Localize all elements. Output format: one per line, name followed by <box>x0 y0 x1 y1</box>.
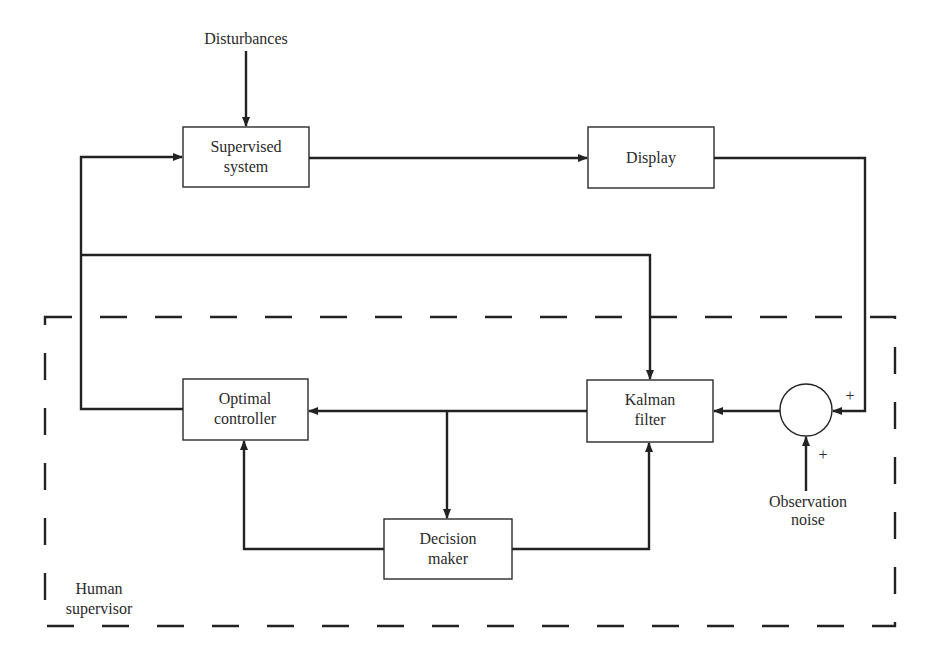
human-supervisor-block-diagram: Disturbances Supervised system Display +… <box>0 0 931 662</box>
human-supervisor-label-2: supervisor <box>66 600 133 618</box>
decision-maker-label-2: maker <box>428 550 469 567</box>
decision-maker-block: Decision maker <box>384 519 512 579</box>
controller-to-system-arrow <box>81 157 183 409</box>
observation-noise-label-1: Observation <box>769 493 847 510</box>
supervised-system-block: Supervised system <box>183 127 309 187</box>
decision-to-controller-arrow <box>244 441 384 549</box>
kalman-filter-label-1: Kalman <box>625 391 676 408</box>
kalman-filter-label-2: filter <box>634 411 666 428</box>
decision-maker-label-1: Decision <box>420 530 477 547</box>
kalman-filter-block: Kalman filter <box>587 380 713 442</box>
optimal-controller-block: Optimal controller <box>183 379 308 440</box>
supervised-system-label-2: system <box>224 158 269 176</box>
disturbances-label: Disturbances <box>204 30 288 47</box>
display-to-junction-arrow <box>714 158 865 411</box>
optimal-controller-label-1: Optimal <box>219 390 272 408</box>
optimal-controller-label-2: controller <box>214 410 277 427</box>
human-supervisor-label-1: Human <box>75 580 122 597</box>
summing-junction <box>780 384 832 436</box>
supervised-system-label-1: Supervised <box>210 138 281 156</box>
display-block: Display <box>588 127 714 188</box>
display-label: Display <box>626 149 676 167</box>
observation-noise-label-2: noise <box>791 511 825 528</box>
decision-to-kalman-arrow <box>512 443 649 549</box>
plus-sign-noise: + <box>818 446 827 463</box>
plus-sign-display: + <box>845 387 854 404</box>
